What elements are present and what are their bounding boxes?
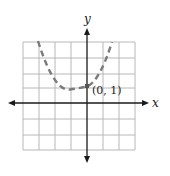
point-marker — [85, 84, 89, 88]
x-axis-right-arrow-icon — [142, 100, 149, 106]
y-axis-up-arrow-icon — [84, 28, 90, 35]
y-axis-label: y — [83, 12, 91, 26]
x-axis-left-arrow-icon — [8, 100, 15, 106]
graph: (0, 1) x y — [0, 0, 170, 176]
x-axis-label: x — [152, 96, 159, 110]
point-label: (0, 1) — [92, 84, 122, 97]
y-axis-down-arrow-icon — [84, 156, 90, 163]
parabola-curve — [38, 41, 112, 90]
